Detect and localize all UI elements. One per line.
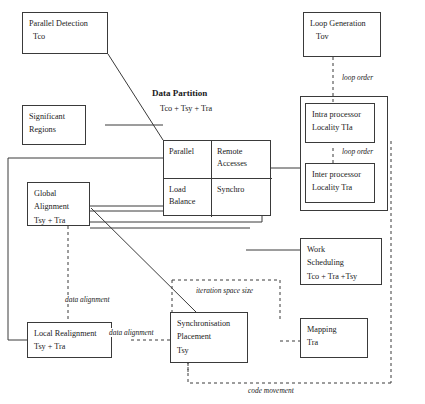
node-mapping[interactable]: Mapping Tra: [300, 318, 368, 358]
node-local-realignment[interactable]: Local Realignment Tsy + Tra: [27, 322, 112, 358]
cell-parallel[interactable]: Parallel: [164, 141, 212, 179]
node-work-scheduling-line3: Tco + Tra +Tsy: [307, 270, 375, 283]
node-synchronisation-line2: Placement: [177, 330, 241, 343]
node-synchronisation-line1: Synchronisation: [177, 317, 241, 330]
cell-remote-accesses[interactable]: Remote Accesses: [212, 141, 272, 179]
node-significant-regions-line1: Significant: [29, 110, 79, 123]
node-loop-generation-line2: Tov: [310, 30, 374, 43]
node-inter-processor[interactable]: Inter processor Locality Tra: [305, 163, 375, 203]
node-synchronisation-placement[interactable]: Synchronisation Placement Tsy: [170, 312, 248, 363]
node-work-scheduling-line2: Scheduling: [307, 256, 375, 269]
node-global-alignment-line1: Global: [34, 187, 83, 200]
node-intra-processor-line1: Intra processor: [312, 108, 368, 121]
cell-synchro[interactable]: Synchro: [212, 179, 272, 217]
node-inter-processor-line1: Inter processor: [312, 168, 368, 181]
node-mapping-line1: Mapping: [307, 323, 361, 336]
cell-synchro-label: Synchro: [217, 184, 272, 196]
node-synchronisation-line3: Tsy: [177, 344, 241, 357]
node-loop-generation-line1: Loop Generation: [310, 17, 374, 30]
data-partition-subtitle: Tco + Tsy + Tra: [160, 104, 212, 113]
node-intra-processor[interactable]: Intra processor Locality TIa: [305, 103, 375, 143]
cell-remote-accesses-line2: Accesses: [217, 158, 272, 170]
diagram-canvas: Parallel Detection Tco Loop Generation T…: [0, 0, 425, 404]
node-work-scheduling[interactable]: Work Scheduling Tco + Tra +Tsy: [300, 238, 382, 285]
node-mapping-line2: Tra: [307, 336, 361, 349]
node-global-alignment-line2: Alignment: [34, 200, 83, 213]
edge-label-code-movement: code movement: [246, 386, 296, 395]
cell-remote-accesses-line1: Remote: [217, 146, 272, 158]
cell-load-balance-line2: Balance: [169, 196, 211, 208]
edge-label-data-alignment-vertical: data alignment: [63, 295, 112, 304]
cell-parallel-label: Parallel: [169, 146, 211, 158]
edge-label-data-alignment-horizontal: data alignment: [107, 328, 156, 337]
cell-load-balance-line1: Load: [169, 184, 211, 196]
edge-label-loop-order-top: loop order: [340, 73, 375, 82]
node-parallel-detection[interactable]: Parallel Detection Tco: [22, 12, 108, 54]
node-local-realignment-line2: Tsy + Tra: [34, 340, 105, 353]
edge-label-loop-order-mid: loop order: [340, 147, 375, 156]
node-local-realignment-line1: Local Realignment: [34, 327, 105, 340]
data-partition-title: Data Partition: [152, 88, 207, 98]
node-work-scheduling-line1: Work: [307, 243, 375, 256]
cell-load-balance[interactable]: Load Balance: [164, 179, 212, 217]
data-partition-matrix: Parallel Remote Accesses Load Balance Sy…: [163, 140, 271, 216]
node-significant-regions[interactable]: Significant Regions: [22, 105, 86, 145]
node-significant-regions-line2: Regions: [29, 123, 79, 136]
node-parallel-detection-line2: Tco: [29, 30, 101, 43]
edge-label-iteration-space-size: iteration space size: [194, 286, 255, 295]
node-global-alignment[interactable]: Global Alignment Tsy + Tra: [27, 182, 90, 226]
node-global-alignment-line3: Tsy + Tra: [34, 214, 83, 227]
node-parallel-detection-line1: Parallel Detection: [29, 17, 101, 30]
node-loop-generation[interactable]: Loop Generation Tov: [303, 12, 381, 57]
node-inter-processor-line2: Locality Tra: [312, 181, 368, 194]
node-intra-processor-line2: Locality TIa: [312, 121, 368, 134]
edge-code-movement-rail: [188, 363, 391, 383]
